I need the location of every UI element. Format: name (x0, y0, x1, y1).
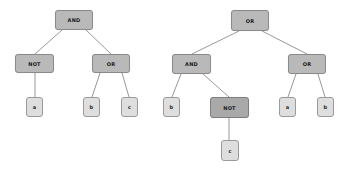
left-tree-leaf-a: a (26, 97, 43, 117)
left-tree-not-node: NOT (15, 54, 54, 73)
tree-edges (0, 0, 349, 173)
right-tree-and-node: AND (172, 54, 211, 74)
right-tree-leaf-a: a (279, 97, 296, 117)
left-tree-or-node: OR (92, 54, 130, 73)
right-tree-leaf-b-right: b (317, 97, 334, 117)
right-tree-leaf-b-left: b (163, 97, 180, 117)
left-tree-leaf-b: b (83, 97, 100, 117)
right-tree-leaf-c: c (221, 140, 239, 161)
right-tree-or-node: OR (288, 54, 326, 74)
right-tree-or-root-node: OR (231, 10, 269, 31)
left-tree-and-node: AND (55, 10, 93, 30)
left-tree-leaf-c: c (121, 97, 138, 117)
right-tree-not-node: NOT (210, 97, 249, 118)
